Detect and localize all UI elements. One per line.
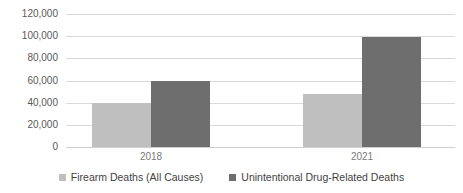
plot-area: 020,00040,00060,00080,000100,000120,0002…: [0, 0, 463, 160]
legend-label-drug-related-deaths: Unintentional Drug-Related Deaths: [241, 172, 404, 183]
x-axis-category-label-2021: 2021: [303, 152, 421, 162]
bar-2018-series-2[interactable]: [151, 81, 210, 148]
chart-legend: Firearm Deaths (All Causes) Unintentiona…: [0, 172, 463, 183]
bar-2021-series-1[interactable]: [303, 94, 362, 147]
bar-2021-series-2[interactable]: [362, 37, 421, 147]
y-axis-tick-label: 0: [0, 142, 58, 152]
y-axis-tick-label: 40,000: [0, 98, 58, 108]
y-axis-tick-label: 100,000: [0, 31, 58, 41]
y-axis-tick-label: 120,000: [0, 9, 58, 19]
legend-item-drug-related-deaths[interactable]: Unintentional Drug-Related Deaths: [229, 172, 404, 183]
legend-swatch-firearm-deaths: [59, 174, 66, 181]
legend-label-firearm-deaths: Firearm Deaths (All Causes): [71, 172, 203, 183]
bar-chart: 020,00040,00060,00080,000100,000120,0002…: [0, 0, 463, 193]
y-axis-tick-label: 20,000: [0, 120, 58, 130]
y-axis-tick-label: 60,000: [0, 76, 58, 86]
bar-2018-series-1[interactable]: [92, 103, 151, 147]
gridline-0: [66, 147, 455, 148]
legend-item-firearm-deaths[interactable]: Firearm Deaths (All Causes): [59, 172, 203, 183]
gridline-120000: [66, 14, 455, 15]
x-axis-category-label-2018: 2018: [92, 152, 210, 162]
y-axis-tick-label: 80,000: [0, 53, 58, 63]
legend-swatch-drug-related-deaths: [229, 174, 236, 181]
